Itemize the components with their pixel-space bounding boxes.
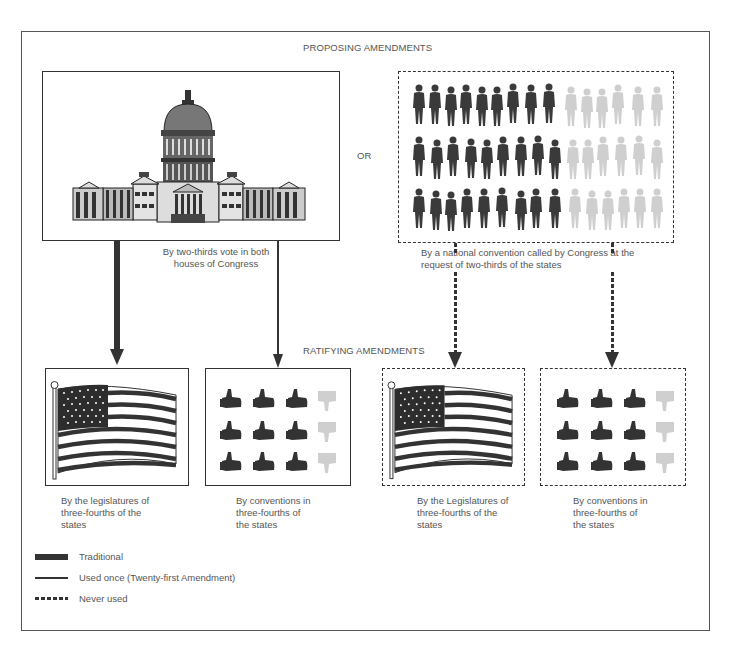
- ratifying-heading: RATIFYING AMENDMENTS: [303, 345, 425, 356]
- caption-line: states: [61, 519, 191, 531]
- caption-line: states: [417, 519, 547, 531]
- caption-line: By conventions in: [573, 495, 693, 507]
- arrow-never-used-2: [611, 272, 614, 352]
- proposing-heading: PROPOSING AMENDMENTS: [303, 42, 432, 53]
- or-label: OR: [357, 150, 371, 161]
- caption-line: three-fourths of the: [61, 507, 191, 519]
- thick-line-swatch-icon: [35, 554, 68, 560]
- caption-line: the states: [236, 519, 356, 531]
- caption-line: By conventions in: [236, 495, 356, 507]
- caption-line: request of two-thirds of the states: [421, 259, 681, 271]
- american-flag-icon: [46, 369, 186, 483]
- arrow-never-used-stub: [611, 243, 614, 253]
- caption-line: houses of Congress: [146, 258, 286, 270]
- arrow-traditional: [114, 241, 120, 349]
- american-flag-icon: [383, 369, 522, 483]
- legislatures-caption-dashed: By the Legislatures of three-fourths of …: [417, 495, 547, 531]
- caption-line: By the legislatures of: [61, 495, 191, 507]
- arrow-never-used-stub: [454, 243, 457, 253]
- arrowhead-traditional: [110, 349, 124, 365]
- arrow-never-used-1: [454, 272, 457, 352]
- arrowhead-used-once: [273, 354, 283, 368]
- arrowhead-never-used-2: [605, 352, 619, 368]
- thin-line-swatch-icon: [35, 577, 68, 579]
- convention-caption: By a national convention called by Congr…: [421, 247, 681, 271]
- legend-used-once: Used once (Twenty-first Amendment): [35, 572, 235, 583]
- caption-line: three-fourths of: [573, 507, 693, 519]
- dotted-line-swatch-icon: [35, 597, 68, 600]
- state-legislatures-box-dashed: [382, 368, 525, 486]
- congress-caption: By two-thirds vote in both houses of Con…: [146, 246, 286, 270]
- legend-traditional: Traditional: [35, 551, 123, 562]
- legislatures-caption: By the legislatures of three-fourths of …: [61, 495, 191, 531]
- arrowhead-never-used-1: [448, 352, 462, 368]
- legend-label: Used once (Twenty-first Amendment): [79, 572, 235, 583]
- legend-label: Traditional: [79, 551, 123, 562]
- caption-line: By a national convention called by Congr…: [421, 247, 681, 259]
- caption-line: By the Legislatures of: [417, 495, 547, 507]
- caption-line: By two-thirds vote in both: [146, 246, 286, 258]
- legend-never-used: Never used: [35, 593, 128, 604]
- state-legislatures-box: [45, 368, 189, 486]
- state-conventions-box: [205, 368, 351, 486]
- national-convention-box: [398, 71, 674, 243]
- capitol-building-icon: [43, 72, 337, 238]
- thumbs-grid-icon: [206, 369, 348, 483]
- state-conventions-box-dashed: [540, 368, 686, 486]
- congress-box: [42, 71, 340, 241]
- conventions-caption-dashed: By conventions in three-fourths of the s…: [573, 495, 693, 531]
- thumbs-grid-icon: [541, 369, 683, 483]
- conventions-caption: By conventions in three-fourths of the s…: [236, 495, 356, 531]
- caption-line: the states: [573, 519, 693, 531]
- arrow-used-once: [277, 241, 279, 354]
- people-crowd-icon: [399, 72, 671, 240]
- legend-label: Never used: [79, 593, 128, 604]
- caption-line: three-fourths of the: [417, 507, 547, 519]
- caption-line: three-fourths of: [236, 507, 356, 519]
